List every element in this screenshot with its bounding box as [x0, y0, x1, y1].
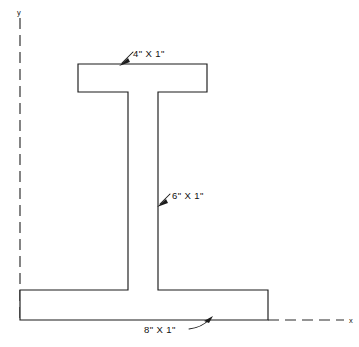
beam-section-diagram: 4" X 1" 6" X 1" 8" X 1" y x: [0, 0, 359, 347]
y-axis-label: y: [17, 8, 21, 17]
bottom-flange-dimension-label: 8" X 1": [144, 324, 176, 335]
beam-cross-section-outline: [20, 64, 268, 320]
web-dimension-label: 6" X 1": [172, 190, 204, 201]
figure-container: 4" X 1" 6" X 1" 8" X 1" y x: [0, 0, 359, 347]
web-leader-arrowhead: [157, 199, 168, 207]
top-flange-dimension-label: 4" X 1": [133, 48, 165, 59]
x-axis-label: x: [349, 316, 353, 325]
